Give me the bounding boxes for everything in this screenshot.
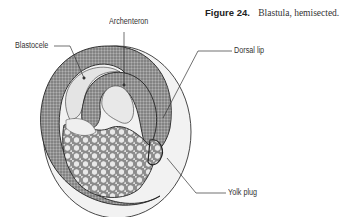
label-archenteron: Archenteron [109, 16, 148, 26]
figure-number: Figure 24. [205, 7, 250, 18]
figure-caption: Figure 24. Blastula, hemisected. [205, 7, 339, 18]
blastula-illustration [0, 0, 341, 217]
label-dorsal-lip: Dorsal lip [234, 45, 264, 55]
figure-title: Blastula, hemisected. [258, 8, 339, 18]
label-yolk-plug: Yolk plug [228, 187, 257, 197]
blastula-figure: Figure 24. Blastula, hemisected. Archent… [0, 0, 341, 217]
label-blastocele: Blastocele [15, 40, 48, 50]
